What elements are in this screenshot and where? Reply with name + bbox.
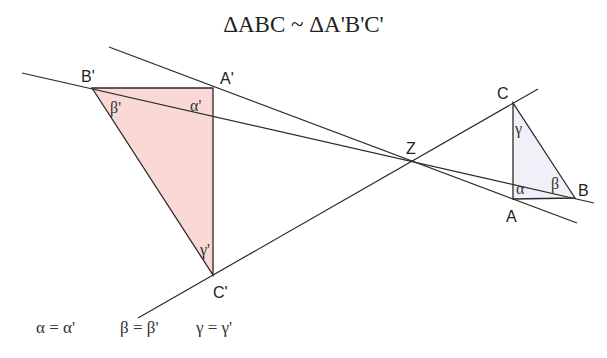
- label-b: B: [578, 182, 589, 199]
- angle-gamma-prime: γ': [199, 241, 210, 259]
- label-a-prime: A': [220, 70, 234, 87]
- label-a: A: [506, 208, 517, 225]
- label-z: Z: [406, 140, 416, 157]
- angle-beta-prime: β': [110, 99, 121, 117]
- label-b-prime: B': [81, 68, 95, 85]
- label-c-prime: C': [213, 284, 228, 301]
- angle-gamma: γ: [514, 120, 522, 138]
- equality-gamma: γ = γ': [195, 318, 232, 337]
- angle-beta: β: [551, 175, 559, 193]
- equality-alpha: α = α': [36, 318, 75, 337]
- similarity-diagram: B' A' C' Z C A B β' α' γ' γ α β α = α' β…: [0, 0, 607, 358]
- triangle-a-prime-b-prime-c-prime: [92, 88, 213, 275]
- equality-beta: β = β': [120, 318, 158, 337]
- angle-alpha: α: [516, 180, 525, 197]
- angle-alpha-prime: α': [190, 97, 201, 114]
- label-c: C: [497, 85, 509, 102]
